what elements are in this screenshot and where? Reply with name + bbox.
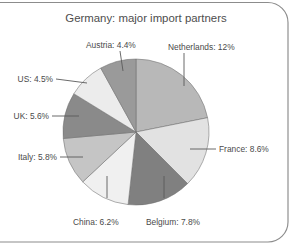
pie-slices [63,59,209,205]
pie-label-netherlands: Netherlands: 12% [168,42,235,52]
pie-label-france: France: 8.6% [219,144,269,154]
pie-label-belgium: Belgium: 7.8% [146,217,201,227]
pie-label-italy: Italy: 5.8% [18,152,58,162]
pie-label-uk: UK: 5.6% [14,111,50,121]
pie-label-us: US: 4.5% [18,74,54,84]
chart-title: Germany: major import partners [65,12,227,24]
pie-chart-figure: Germany: major import partners Netherlan… [0,0,293,244]
leader-line-us [56,79,87,83]
pie-label-china: China: 6.2% [73,217,119,227]
pie-label-austria: Austria: 4.4% [86,40,136,50]
chart-canvas: Germany: major import partners Netherlan… [0,0,293,244]
